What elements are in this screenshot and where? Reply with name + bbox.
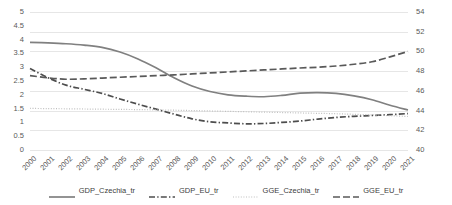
legend-label: GGE_Czechia_tr xyxy=(263,186,320,195)
chart-legend: GDP_Czechia_trGDP_EU_trGGE_Czechia_trGGE… xyxy=(0,186,452,195)
legend-swatch-icon xyxy=(49,187,75,195)
y-right-tick-label: 50 xyxy=(416,47,438,55)
series-line-gge-czechia-tr xyxy=(30,108,408,116)
y-right-tick-label: 48 xyxy=(416,67,438,75)
y-right-tick-label: 40 xyxy=(416,146,438,154)
legend-label: GGE_EU_tr xyxy=(363,186,403,195)
y-left-tick-label: 4 xyxy=(2,36,24,44)
legend-item-gge-czechia-tr[interactable]: GGE_Czechia_tr xyxy=(233,186,320,195)
legend-item-gge-eu-tr[interactable]: GGE_EU_tr xyxy=(333,186,403,195)
series-line-gdp-czechia-tr xyxy=(30,42,408,110)
y-left-tick-label: 5 xyxy=(2,8,24,16)
legend-label: GDP_EU_tr xyxy=(179,186,219,195)
plot-area xyxy=(30,12,408,150)
legend-swatch-icon xyxy=(233,187,259,195)
y-left-tick-label: 0.5 xyxy=(2,132,24,140)
y-left-tick-label: 2.5 xyxy=(2,77,24,85)
y-right-tick-label: 44 xyxy=(416,107,438,115)
y-left-tick-label: 4.5 xyxy=(2,22,24,30)
y-left-tick-label: 3 xyxy=(2,63,24,71)
gridline xyxy=(30,150,408,151)
y-right-tick-label: 46 xyxy=(416,87,438,95)
legend-swatch-icon xyxy=(149,187,175,195)
y-right-tick-label: 42 xyxy=(416,126,438,134)
y-right-tick-label: 52 xyxy=(416,28,438,36)
series-lines xyxy=(30,12,408,150)
series-line-gge-eu-tr xyxy=(30,51,408,79)
y-left-tick-label: 0 xyxy=(2,146,24,154)
y-right-tick-label: 54 xyxy=(416,8,438,16)
y-left-tick-label: 2 xyxy=(2,91,24,99)
legend-swatch-icon xyxy=(333,187,359,195)
legend-label: GDP_Czechia_tr xyxy=(79,186,135,195)
y-left-tick-label: 1 xyxy=(2,118,24,126)
legend-item-gdp-czechia-tr[interactable]: GDP_Czechia_tr xyxy=(49,186,135,195)
chart-container: 54.543.532.521.510.50 5452504846444240 2… xyxy=(0,0,452,205)
y-left-tick-label: 1.5 xyxy=(2,105,24,113)
y-left-tick-label: 3.5 xyxy=(2,49,24,57)
legend-item-gdp-eu-tr[interactable]: GDP_EU_tr xyxy=(149,186,219,195)
